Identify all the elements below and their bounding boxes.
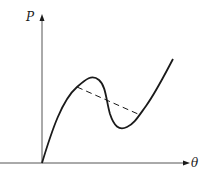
x-axis-arrow-icon (183, 161, 190, 166)
load-curve (42, 59, 173, 163)
x-axis-label: θ (191, 157, 198, 169)
diagram-canvas: P θ (0, 0, 203, 176)
y-axis-label: P (26, 11, 34, 23)
dashed-equal-area-line (77, 87, 138, 114)
diagram-svg (0, 0, 203, 176)
y-axis-arrow-icon (40, 14, 45, 21)
